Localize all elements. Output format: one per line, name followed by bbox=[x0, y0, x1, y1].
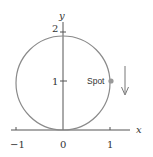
spot-point bbox=[108, 78, 113, 83]
spot-label: Spot bbox=[87, 76, 105, 86]
diagram-canvas: y x 2 1 −1 0 1 Spot bbox=[0, 0, 153, 157]
x-tick-label-0: 0 bbox=[60, 139, 66, 150]
x-axis-label: x bbox=[136, 124, 142, 135]
y-tick-label-1: 1 bbox=[52, 76, 58, 87]
x-tick-label-1: 1 bbox=[107, 139, 113, 150]
y-tick-label-2: 2 bbox=[52, 23, 58, 34]
y-axis-label: y bbox=[58, 10, 65, 21]
x-tick-label-neg1: −1 bbox=[10, 139, 25, 150]
